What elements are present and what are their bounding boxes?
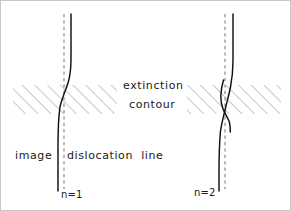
extinction-label: extinction <box>123 80 184 91</box>
extinction-contour-band-right <box>187 85 281 114</box>
hatch-fill-right <box>187 85 281 114</box>
contour-label: contour <box>129 99 176 110</box>
dislocation-line-label: dislocation line <box>67 150 163 161</box>
hatch-fill-left <box>13 85 117 114</box>
extinction-contour-band-left <box>13 85 117 114</box>
image-label: image <box>15 150 52 161</box>
n1-label: n=1 <box>61 190 83 200</box>
figure-container: extinction contour image dislocation lin… <box>0 0 291 211</box>
n2-label: n=2 <box>194 188 216 198</box>
